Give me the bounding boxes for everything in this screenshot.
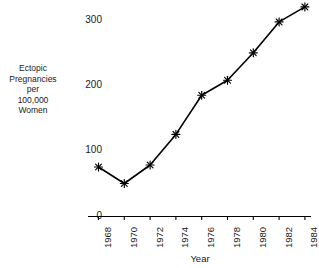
x-axis-title: Year — [150, 253, 250, 264]
x-tick-label-1974: 1974 — [180, 227, 190, 248]
x-tick-label-1968: 1968 — [103, 227, 113, 248]
data-point-1978 — [224, 76, 232, 84]
data-point-1972 — [146, 161, 154, 169]
data-point-1970 — [120, 180, 128, 188]
x-tick-label-1976: 1976 — [206, 227, 216, 248]
chart-figure: Ectopic Pregnancies per 100,000 Women 30… — [0, 0, 319, 268]
x-tick-label-1984: 1984 — [309, 227, 319, 248]
x-tick-label-1980: 1980 — [258, 227, 268, 248]
x-tick-label-1970: 1970 — [129, 227, 139, 248]
x-tick-label-1982: 1982 — [284, 227, 294, 248]
data-point-1982 — [275, 18, 283, 26]
data-point-1976 — [198, 91, 206, 99]
series-markers — [95, 3, 309, 188]
data-point-1984 — [301, 3, 309, 11]
x-axis-ticks — [99, 217, 305, 220]
data-point-1980 — [249, 49, 257, 57]
data-point-1968 — [95, 163, 103, 171]
x-tick-label-1978: 1978 — [232, 227, 242, 248]
x-tick-label-1972: 1972 — [155, 227, 165, 248]
data-point-1974 — [172, 130, 180, 138]
